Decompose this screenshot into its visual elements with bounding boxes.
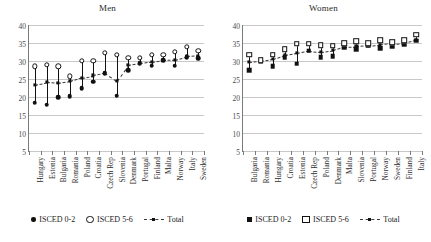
data-point [401,37,407,43]
panel-women: Women 510152025303540 BulgariaRomaniaHun… [216,0,431,242]
x-category-label: Italy [189,157,196,170]
data-point [247,60,250,63]
gridline: 5 [29,151,204,152]
x-category-label: Denmark [130,157,137,184]
data-point [114,52,119,57]
data-point [318,42,324,48]
data-point [68,94,73,99]
range-stem [117,55,118,96]
x-tick [99,151,100,155]
x-tick [52,151,53,155]
y-tick-label: 35 [19,40,27,49]
legend-label: ISCED 5-6 [313,215,349,224]
x-axis-labels-women: BulgariaRomaniaHungaryCroatiaEstoniaCzec… [242,157,422,205]
x-category-label: Estonia [299,157,306,179]
data-point [282,55,287,60]
x-category-label: Bulgaria [251,157,258,182]
x-category-label: Malta [165,157,172,174]
legend-label: ISCED 0-2 [255,215,291,224]
plot-area-women: 510152025303540 [242,25,422,152]
data-point [125,55,130,60]
range-stem [47,65,48,105]
legend-marker-icon [302,216,309,223]
legend-marker-icon [144,217,164,222]
x-tick [169,151,170,155]
data-point [246,52,252,58]
x-tick [291,151,292,155]
y-tick-label: 25 [19,76,27,85]
legend-marker-icon [360,217,380,222]
x-tick [398,151,399,155]
data-point [184,44,189,49]
data-point [90,58,95,63]
data-point [354,47,359,52]
gridline: 15 [29,115,204,116]
data-point [184,55,189,60]
x-tick [386,151,387,155]
gridline: 40 [243,25,422,26]
data-point [318,55,323,60]
data-point [149,52,154,57]
data-point [92,74,95,77]
x-category-label: Norway [177,157,184,181]
data-point [354,38,360,44]
legend-label: Total [383,215,399,224]
x-category-label: Slovenia [358,157,365,183]
x-category-label: Estonia [49,157,56,179]
y-tick-label: 15 [19,112,27,121]
x-tick [267,151,268,155]
x-category-label: Poland [84,157,91,177]
x-category-label: Croatia [287,157,294,178]
y-tick-label: 35 [233,40,241,49]
panel-men-title: Men [0,3,215,13]
y-tick-label: 30 [233,58,241,67]
gridline: 35 [29,43,204,44]
gridline: 20 [243,97,422,98]
data-point [271,64,276,69]
legend-label: ISCED 5-6 [97,215,133,224]
gridline: 15 [243,115,422,116]
x-category-label: Czech Rep [311,157,318,189]
x-category-label: Sweden [394,157,401,180]
x-category-label: Hungary [275,157,282,183]
x-tick [374,151,375,155]
x-tick [255,151,256,155]
data-point [295,51,298,54]
x-tick [315,151,316,155]
data-point [137,55,142,60]
x-tick [243,151,244,155]
x-tick [157,151,158,155]
data-point [330,43,336,49]
dual-scatter-figure: Men 510152025303540 HungaryEstoniaBulgar… [0,0,431,242]
data-point [330,54,335,59]
data-point [149,63,154,68]
data-point [172,49,177,54]
range-stem [82,61,83,89]
data-point [33,100,38,105]
x-tick [41,151,42,155]
x-tick [87,151,88,155]
x-category-label: Denmark [335,157,342,184]
panel-men: Men 510152025303540 HungaryEstoniaBulgar… [0,0,215,242]
data-point [103,71,108,76]
x-category-label: Hungary [37,157,44,183]
y-tick-label: 15 [233,112,241,121]
data-point [377,37,383,43]
data-point [331,49,334,52]
x-category-label: Bulgaria [60,157,67,182]
x-category-label: Croatia [95,157,102,178]
x-tick [362,151,363,155]
data-point [247,68,252,73]
x-tick [181,151,182,155]
data-point [55,64,60,69]
legend-women: ISCED 0-2ISCED 5-6Total [216,215,431,224]
legend-item: ISCED 5-6 [302,215,349,224]
data-point [319,50,322,53]
gridline: 10 [243,133,422,134]
data-point [33,83,36,86]
x-tick [410,151,411,155]
x-tick [422,151,423,155]
x-tick [350,151,351,155]
y-tick-label: 40 [19,22,27,31]
x-axis-labels-men: HungaryEstoniaBulgariaRomaniaPolandCroat… [28,157,204,205]
